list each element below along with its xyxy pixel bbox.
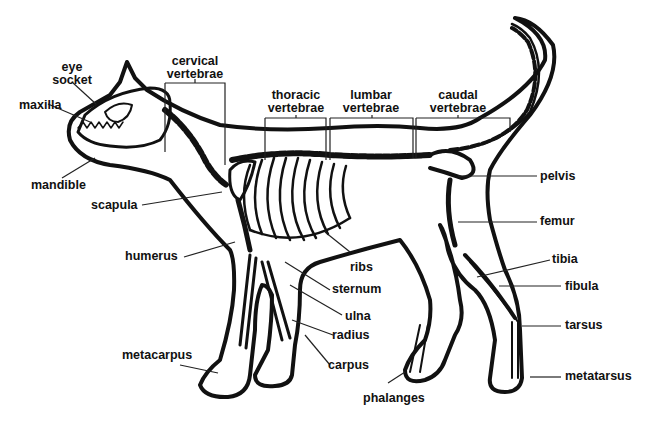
- label-phalanges: phalanges: [363, 392, 425, 405]
- label-fibula: fibula: [565, 280, 598, 293]
- label-scapula: scapula: [91, 199, 138, 212]
- femur-bone: [448, 180, 455, 245]
- label-cervical-vertebrae: cervical vertebrae: [160, 55, 230, 81]
- label-humerus: humerus: [125, 250, 178, 263]
- label-caudal-line2: vertebrae: [423, 102, 493, 115]
- label-eye-socket-line2: socket: [47, 74, 97, 87]
- label-ribs: ribs: [350, 261, 373, 274]
- cervical-spine: [165, 110, 228, 186]
- label-tarsus: tarsus: [565, 319, 603, 332]
- label-mandible: mandible: [31, 179, 86, 192]
- label-ulna: ulna: [345, 310, 371, 323]
- label-lumbar-vertebrae: lumbar vertebrae: [336, 89, 406, 115]
- label-femur: femur: [540, 215, 575, 228]
- label-pelvis: pelvis: [540, 170, 575, 183]
- label-caudal-vertebrae: caudal vertebrae: [423, 89, 493, 115]
- scapula-bone: [230, 161, 255, 200]
- label-tibia: tibia: [552, 253, 578, 266]
- body-outline: [69, 18, 555, 397]
- label-maxilla: maxilla: [19, 99, 61, 112]
- label-lumbar-line2: vertebrae: [336, 102, 406, 115]
- label-thoracic-vertebrae: thoracic vertebrae: [261, 89, 331, 115]
- front-leg-bones: [240, 255, 290, 348]
- label-cervical-line2: vertebrae: [160, 68, 230, 81]
- label-metacarpus: metacarpus: [122, 349, 192, 362]
- label-carpus: carpus: [328, 359, 369, 372]
- eye-socket-shape: [105, 104, 132, 122]
- label-thoracic-line2: vertebrae: [261, 102, 331, 115]
- label-metatarsus: metatarsus: [565, 370, 632, 383]
- label-radius: radius: [332, 329, 370, 342]
- dog-skeleton-diagram: eye socket maxilla mandible cervical ver…: [0, 0, 658, 427]
- pelvis-bone: [430, 151, 474, 178]
- hind-foot-bones: [410, 322, 518, 378]
- label-sternum: sternum: [332, 283, 381, 296]
- label-eye-socket: eye socket: [47, 61, 97, 87]
- ribcage: [244, 158, 350, 240]
